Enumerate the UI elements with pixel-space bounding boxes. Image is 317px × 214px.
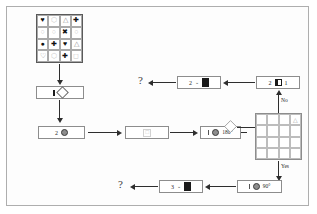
answer-cell[interactable] xyxy=(279,137,290,148)
edge-label-yes: Yes xyxy=(281,163,289,169)
edge-label-no: No xyxy=(281,97,288,103)
arrowhead-down xyxy=(57,118,63,123)
node-rotate-90[interactable]: 90° xyxy=(237,180,282,193)
answer-cell[interactable] xyxy=(256,125,267,136)
symbol-cell: ○ xyxy=(48,27,59,39)
answer-cell[interactable] xyxy=(279,125,290,136)
answer-grid: △ xyxy=(255,113,302,160)
symbol-cell: ✚ xyxy=(48,39,59,51)
filled-circle-icon xyxy=(253,183,260,190)
faint-square-icon: ☐ xyxy=(143,129,151,137)
node-bottom-mid-caret: ⌄ xyxy=(177,184,181,189)
answer-cell[interactable] xyxy=(256,114,267,125)
connector-empty-to-rotate180 xyxy=(170,132,194,133)
symbol-cell: ○ xyxy=(71,27,82,39)
arrowhead-left xyxy=(223,80,228,86)
filled-circle-icon xyxy=(212,129,219,136)
symbol-cell: △ xyxy=(60,15,71,27)
symbol-cell: ✖ xyxy=(60,27,71,39)
node-top-mid-caret: ⌄ xyxy=(195,80,199,85)
connector-topright-to-topmid xyxy=(227,82,255,83)
node-top-right-number: 2 xyxy=(269,80,272,86)
node-bottom-mid[interactable]: 3 ⌄ xyxy=(159,180,203,193)
diamond-icon xyxy=(56,86,69,99)
arrowhead-left xyxy=(148,80,153,86)
symbol-grid: ♥⬡△✚○○✖○●✚♥△♡⬡✚◻ xyxy=(36,14,83,63)
symbol-cell: ⬡ xyxy=(48,15,59,27)
node-rotate-90-angle: 90° xyxy=(263,184,271,190)
connector-rotate180-to-decision xyxy=(241,132,247,133)
question-mark-top: ? xyxy=(138,74,143,86)
answer-cell[interactable] xyxy=(279,114,290,125)
symbol-cell: ✚ xyxy=(60,50,71,62)
connector-select-to-count xyxy=(59,100,60,119)
arrowhead-right xyxy=(193,130,198,136)
arrowhead-left xyxy=(205,184,210,190)
question-mark-bottom: ? xyxy=(118,178,123,190)
block-icon xyxy=(184,182,191,191)
answer-cell[interactable] xyxy=(256,148,267,159)
answer-cell[interactable] xyxy=(290,148,301,159)
bar-icon xyxy=(53,90,55,96)
connector-count-to-empty xyxy=(88,132,118,133)
arrowhead-up xyxy=(276,90,282,95)
bar-icon xyxy=(208,130,209,135)
symbol-cell: ● xyxy=(37,39,48,51)
symbol-cell: ♥ xyxy=(37,15,48,27)
answer-cell[interactable] xyxy=(279,148,290,159)
node-top-mid-number: 2 xyxy=(189,80,192,86)
node-top-mid[interactable]: 2 ⌄ xyxy=(177,76,221,89)
connector-rotate90-to-bottommid xyxy=(209,186,236,187)
answer-cell[interactable] xyxy=(256,137,267,148)
node-bottom-mid-number: 3 xyxy=(171,184,174,190)
node-select-shape[interactable] xyxy=(36,86,84,99)
connector-grid-to-no xyxy=(278,95,279,113)
screenshot-canvas: ♥⬡△✚○○✖○●✚♥△♡⬡✚◻ 2 ☐ 180° △ xyxy=(0,0,317,214)
decision-diamond[interactable] xyxy=(224,120,237,133)
symbol-cell: △ xyxy=(71,39,82,51)
connector-grid-to-select xyxy=(59,64,60,81)
node-empty-step[interactable]: ☐ xyxy=(125,126,169,139)
split-block-icon xyxy=(275,79,282,86)
node-count-two-number: 2 xyxy=(55,130,58,136)
bar-icon xyxy=(249,184,250,189)
node-top-right[interactable]: 2 1 xyxy=(256,76,300,89)
symbol-cell: ○ xyxy=(37,27,48,39)
symbol-cell: ♡ xyxy=(37,50,48,62)
symbol-cell: ♥ xyxy=(60,39,71,51)
answer-cell[interactable] xyxy=(290,125,301,136)
arrowhead-left xyxy=(130,184,135,190)
node-top-right-suffix: 1 xyxy=(285,80,288,86)
symbol-cell: ◻ xyxy=(71,50,82,62)
arrowhead-right xyxy=(117,130,122,136)
symbol-cell: ✚ xyxy=(71,15,82,27)
symbol-cell: ⬡ xyxy=(48,50,59,62)
connector-topmid-to-question xyxy=(152,82,176,83)
arrowhead-down xyxy=(57,80,63,85)
answer-cell[interactable] xyxy=(267,125,278,136)
connector-decision-to-grid xyxy=(237,127,255,128)
answer-cell[interactable] xyxy=(267,148,278,159)
answer-cell[interactable]: △ xyxy=(290,114,301,125)
connector-grid-to-yes xyxy=(278,161,279,177)
node-count-two[interactable]: 2 xyxy=(38,126,85,139)
circle-target-icon xyxy=(61,129,68,136)
answer-cell[interactable] xyxy=(267,114,278,125)
answer-cell[interactable] xyxy=(267,137,278,148)
block-icon xyxy=(202,78,209,87)
answer-cell[interactable] xyxy=(290,137,301,148)
connector-bottommid-to-question xyxy=(134,186,158,187)
